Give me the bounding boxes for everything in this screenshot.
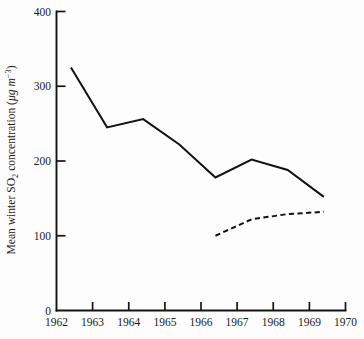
series-line-solid — [71, 68, 324, 197]
y-tick-label-100: 100 — [34, 230, 52, 242]
y-tick-labels: 400 300 200 100 0 — [34, 6, 52, 317]
y-tick-label-0: 0 — [45, 305, 51, 317]
y-tick-marks — [57, 12, 66, 236]
x-tick-label-1963: 1963 — [81, 316, 104, 328]
y-axis-title: Mean winter SO2 concentration (μg m−3) — [4, 65, 20, 254]
x-tick-label-1967: 1967 — [226, 316, 249, 328]
x-tick-label-1964: 1964 — [117, 316, 140, 328]
line-chart: 400 300 200 100 0 1962 1963 1964 1965 19… — [0, 0, 364, 339]
x-tick-label-1969: 1969 — [298, 316, 321, 328]
series-line-dashed — [215, 212, 323, 236]
y-tick-label-400: 400 — [34, 6, 52, 18]
x-tick-marks — [93, 302, 346, 311]
y-axis-title-lead: Mean winter SO — [5, 178, 18, 255]
y-tick-label-300: 300 — [34, 80, 52, 92]
y-axis-title-mid: concentration ( — [5, 101, 18, 174]
x-tick-label-1962: 1962 — [45, 316, 68, 328]
x-tick-label-1968: 1968 — [262, 316, 285, 328]
x-tick-label-1965: 1965 — [153, 316, 176, 328]
x-tick-labels: 1962 1963 1964 1965 1966 1967 1968 1969 … — [45, 316, 357, 328]
x-tick-label-1966: 1966 — [190, 316, 213, 328]
x-tick-label-1970: 1970 — [334, 316, 357, 328]
svg-text:Mean winter SO2 concentration: Mean winter SO2 concentration (μg m−3) — [4, 65, 20, 254]
chart-container: 400 300 200 100 0 1962 1963 1964 1965 19… — [0, 0, 364, 339]
y-tick-label-200: 200 — [34, 155, 52, 167]
y-axis-title-tail: ) — [5, 65, 18, 69]
y-axis-title-unit: μg m — [5, 78, 18, 102]
y-axis-title-sup: −3 — [4, 69, 13, 78]
